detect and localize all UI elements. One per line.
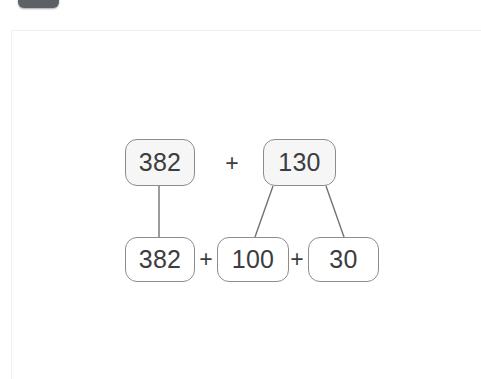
plus-operator-top: + <box>220 151 244 175</box>
connector-lines <box>12 31 481 379</box>
node-value: 100 <box>232 245 275 274</box>
plus-symbol: + <box>199 248 212 271</box>
cut-off-toolbar-pill[interactable] <box>18 0 59 8</box>
node-value: 30 <box>329 245 357 274</box>
connector-line-130-to-30 <box>326 186 344 237</box>
node-box-bottom-30[interactable]: 30 <box>308 237 379 282</box>
node-value: 382 <box>139 245 182 274</box>
node-box-bottom-382[interactable]: 382 <box>125 237 195 282</box>
node-value: 382 <box>139 148 182 177</box>
plus-symbol: + <box>225 152 238 175</box>
plus-operator-bottom-1: + <box>195 248 217 270</box>
connector-line-130-to-100 <box>255 186 273 237</box>
plus-operator-bottom-2: + <box>286 248 308 270</box>
node-value: 130 <box>278 148 321 177</box>
node-box-top-130[interactable]: 130 <box>263 139 336 186</box>
plus-symbol: + <box>290 248 303 271</box>
number-bond-diagram: 382 + 130 382 + 100 + 30 <box>12 31 481 379</box>
node-box-bottom-100[interactable]: 100 <box>217 237 289 282</box>
node-box-top-382[interactable]: 382 <box>125 139 195 186</box>
content-card: 382 + 130 382 + 100 + 30 <box>11 30 481 379</box>
